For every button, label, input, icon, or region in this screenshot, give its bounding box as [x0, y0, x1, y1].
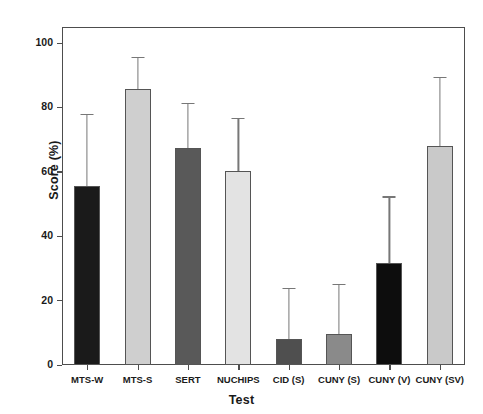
error-bar-stem	[338, 284, 339, 335]
error-bar-stem	[137, 57, 138, 89]
x-tick-mark	[289, 365, 290, 370]
x-tick-label: CID (S)	[273, 374, 305, 385]
bar	[376, 263, 402, 365]
error-bar-cap	[181, 103, 194, 104]
x-tick-label: NUCHIPS	[217, 374, 260, 385]
x-tick-label: CUNY (V)	[368, 374, 410, 385]
bar	[276, 339, 302, 365]
error-bar-cap	[81, 114, 94, 115]
error-bar-stem	[439, 77, 440, 147]
error-bar-cap	[232, 118, 245, 119]
y-tick-label: 100	[35, 36, 53, 48]
error-bar-cap	[383, 196, 396, 197]
x-tick-mark	[188, 365, 189, 370]
y-axis-title: Score (%)	[47, 110, 61, 230]
x-tick-mark	[238, 365, 239, 370]
x-tick-mark	[87, 365, 88, 370]
y-tick-mark	[57, 107, 62, 108]
bar	[175, 148, 201, 365]
error-bar-stem	[389, 196, 390, 263]
x-tick-label: SERT	[175, 374, 200, 385]
bar	[427, 146, 453, 365]
error-bar-stem	[238, 118, 239, 171]
plot-area	[62, 27, 465, 365]
y-tick-mark	[57, 236, 62, 237]
bar-chart-figure: 020406080100 Score (%) MTS-WMTS-SSERTNUC…	[0, 0, 483, 414]
error-bar-stem	[288, 288, 289, 339]
x-tick-mark	[440, 365, 441, 370]
y-tick-label: 0	[47, 358, 53, 370]
x-tick-mark	[389, 365, 390, 370]
error-bar-cap	[333, 284, 346, 285]
error-bar-cap	[131, 57, 144, 58]
bar	[225, 171, 251, 365]
error-bar-stem	[187, 103, 188, 148]
x-tick-label: CUNY (SV)	[416, 374, 464, 385]
x-tick-label: CUNY (S)	[318, 374, 360, 385]
x-tick-mark	[138, 365, 139, 370]
bar	[74, 186, 100, 365]
error-bar-stem	[87, 114, 88, 186]
bar	[125, 89, 151, 365]
x-tick-label: MTS-W	[71, 374, 103, 385]
y-tick-mark	[57, 365, 62, 366]
x-tick-label: MTS-S	[123, 374, 153, 385]
y-tick-mark	[57, 300, 62, 301]
x-tick-mark	[339, 365, 340, 370]
y-tick-mark	[57, 43, 62, 44]
clipped-header-text	[0, 0, 483, 8]
error-bar-cap	[282, 288, 295, 289]
error-bar-cap	[433, 77, 446, 78]
y-tick-label: 20	[41, 294, 53, 306]
bar	[326, 334, 352, 365]
y-tick-label: 40	[41, 229, 53, 241]
x-axis-title: Test	[0, 393, 483, 407]
